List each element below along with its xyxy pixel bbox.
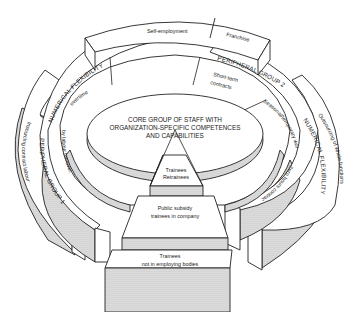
self-employment-label: Self-employment <box>147 28 188 34</box>
core-label-line3: AND CAPABILITIES <box>146 132 204 139</box>
retrainees-label: Retrainees <box>163 174 189 180</box>
trainees-outside-label-1: Trainees <box>160 253 181 259</box>
core-label-line1: CORE GROUP OF STAFF WITH <box>128 116 222 123</box>
public-subsidy-label-2: trainees in company <box>151 213 200 219</box>
trainees-outside-label-2: not in employing bodies <box>142 261 199 267</box>
flexible-firm-diagram: CORE GROUP OF STAFF WITH ORGANIZATION-SP… <box>0 0 349 312</box>
core-label-line2: ORGANIZATION-SPECIFIC COMPETENCES <box>110 124 241 131</box>
public-subsidy-label-1: Public subsidy <box>158 205 193 211</box>
trainees-label: Trainees <box>166 167 187 173</box>
